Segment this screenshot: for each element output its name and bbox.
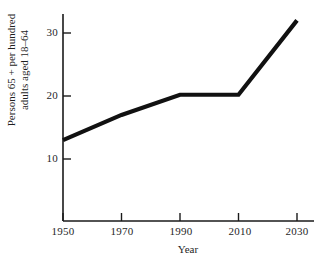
x-axis-ticks	[63, 213, 297, 221]
x-tick-label-1990: 1990	[161, 225, 201, 237]
y-axis-title-line-1: Persons 65 + per hundred	[5, 0, 18, 150]
x-tick-label-2010: 2010	[220, 225, 260, 237]
y-tick-label-30: 30	[36, 26, 58, 38]
y-tick-label-10: 10	[36, 152, 58, 164]
y-axis-title-line-2: adults aged 18–64	[18, 0, 31, 150]
x-tick-label-1970: 1970	[102, 225, 142, 237]
x-tick-label-1950: 1950	[43, 225, 83, 237]
line-chart-figure: 30 20 10 1950 1970 1990 2010 2030 Year P…	[0, 0, 332, 266]
y-tick-label-20: 20	[36, 89, 58, 101]
x-tick-label-2030: 2030	[277, 225, 317, 237]
y-axis-title: Persons 65 + per hundred adults aged 18–…	[5, 0, 35, 150]
x-axis-title: Year	[148, 243, 228, 255]
data-series-line	[63, 20, 297, 140]
